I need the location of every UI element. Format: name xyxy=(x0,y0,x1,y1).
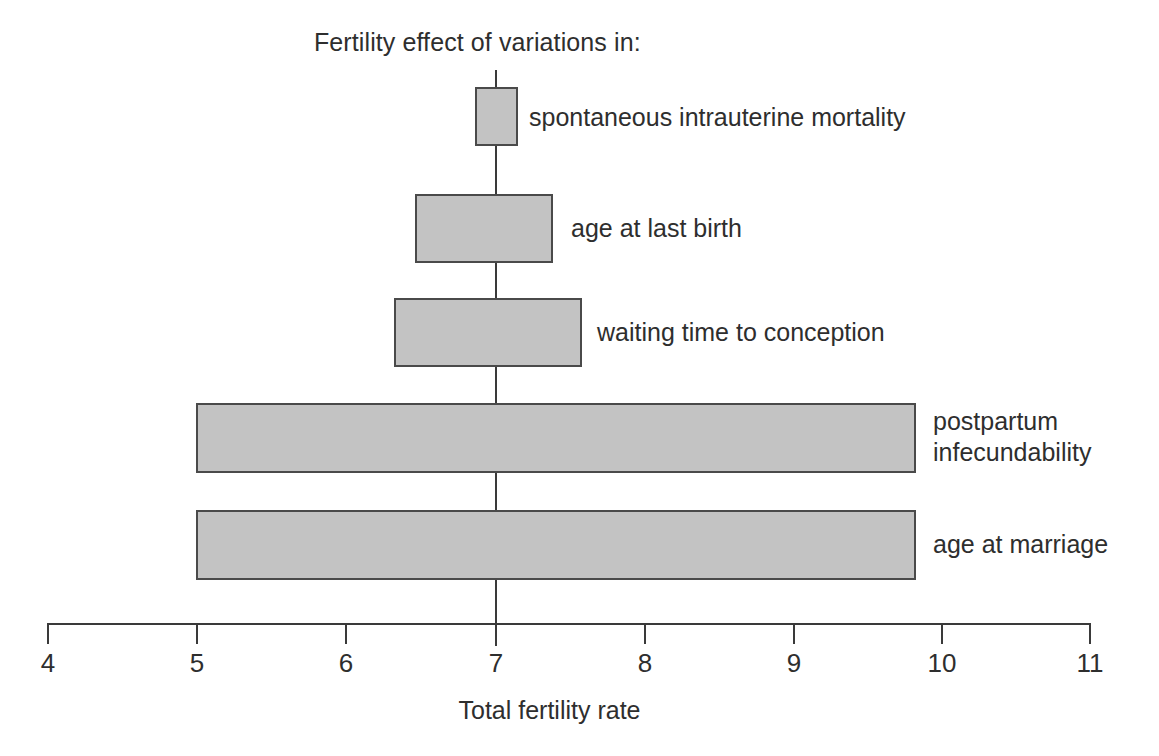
bar-age-at-marriage xyxy=(196,510,916,580)
bar-label-postpartum-infecundability-line-1: postpartum xyxy=(933,406,1091,437)
x-tick-7 xyxy=(495,624,497,644)
x-tick-label-6: 6 xyxy=(339,648,353,679)
bar-label-waiting-time-to-conception: waiting time to conception xyxy=(597,317,885,348)
x-tick-label-11: 11 xyxy=(1077,648,1104,679)
x-tick-4 xyxy=(47,624,49,644)
x-tick-label-5: 5 xyxy=(190,648,204,679)
x-tick-label-7: 7 xyxy=(489,648,503,679)
bar-label-postpartum-infecundability: postpartum infecundability xyxy=(933,406,1091,468)
x-tick-label-10: 10 xyxy=(928,648,957,679)
x-axis-line xyxy=(47,623,1091,625)
bar-label-spontaneous-intrauterine-mortality: spontaneous intrauterine mortality xyxy=(529,102,906,133)
x-tick-10 xyxy=(941,624,943,644)
bar-label-age-at-last-birth: age at last birth xyxy=(571,213,742,244)
bar-postpartum-infecundability xyxy=(196,403,916,473)
x-tick-label-9: 9 xyxy=(787,648,801,679)
x-axis-title-text: Total fertility rate xyxy=(458,696,640,725)
chart-title: Fertility effect of variations in: xyxy=(314,28,641,57)
bar-waiting-time-to-conception xyxy=(394,298,582,367)
bar-age-at-last-birth xyxy=(415,194,553,263)
x-tick-9 xyxy=(793,624,795,644)
x-tick-8 xyxy=(644,624,646,644)
x-tick-label-4: 4 xyxy=(41,648,55,679)
x-tick-label-8: 8 xyxy=(638,648,652,679)
bar-label-age-at-marriage: age at marriage xyxy=(933,529,1108,560)
x-axis-title: Total fertility rate xyxy=(0,696,1159,725)
x-tick-11 xyxy=(1089,624,1091,644)
fertility-effect-chart: Fertility effect of variations in: spont… xyxy=(0,0,1159,756)
bar-spontaneous-intrauterine-mortality xyxy=(475,87,518,146)
x-tick-6 xyxy=(345,624,347,644)
x-tick-5 xyxy=(196,624,198,644)
bar-label-postpartum-infecundability-line-2: infecundability xyxy=(933,437,1091,468)
